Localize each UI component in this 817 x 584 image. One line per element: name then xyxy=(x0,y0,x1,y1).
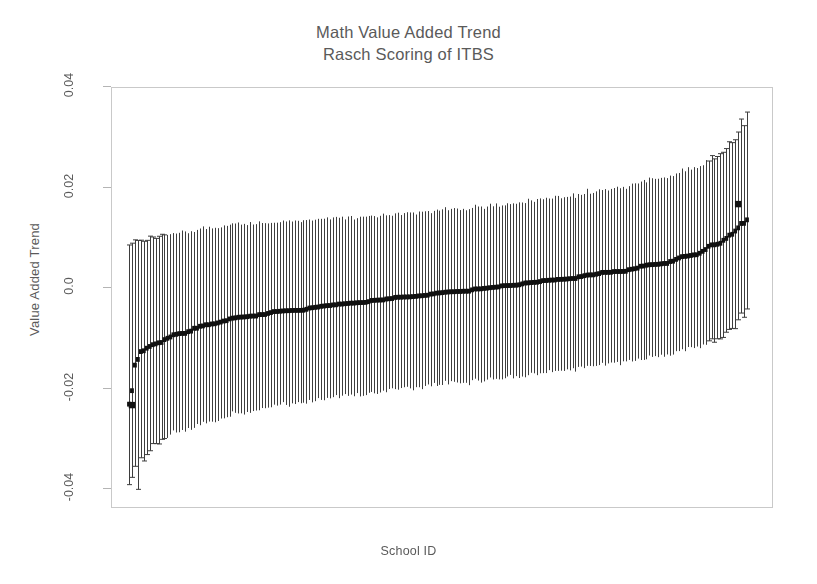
x-axis-title: School ID xyxy=(0,544,817,558)
y-tick-mark xyxy=(103,388,111,389)
y-tick-label: 0.0 xyxy=(62,255,76,317)
y-tick-label: -0.02 xyxy=(62,356,76,418)
y-tick-mark xyxy=(103,86,111,87)
plot-area xyxy=(111,87,773,508)
y-tick-label: -0.04 xyxy=(62,456,76,518)
chart-figure: Math Value Added Trend Rasch Scoring of … xyxy=(0,0,817,584)
chart-title-line-1: Math Value Added Trend xyxy=(0,22,817,44)
y-tick-mark xyxy=(103,488,111,489)
caterpillar-plot-canvas xyxy=(111,87,773,508)
chart-title: Math Value Added Trend Rasch Scoring of … xyxy=(0,22,817,66)
chart-subtitle-line-2: Rasch Scoring of ITBS xyxy=(0,44,817,66)
y-axis-title: Value Added Trend xyxy=(27,180,42,380)
y-tick-mark xyxy=(103,287,111,288)
y-tick-mark xyxy=(103,187,111,188)
y-tick-label: 0.02 xyxy=(62,155,76,217)
